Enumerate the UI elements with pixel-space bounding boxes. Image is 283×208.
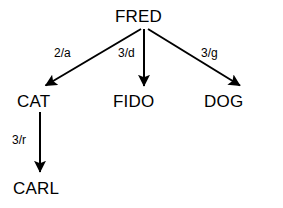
- edge-label-fred-dog: 3/g: [201, 47, 218, 59]
- edge-label-fred-cat: 2/a: [54, 47, 71, 59]
- node-fred: FRED: [115, 8, 162, 25]
- node-cat: CAT: [17, 93, 50, 110]
- edge-label-cat-carl: 3/r: [12, 134, 26, 146]
- edge-fred-dog: [148, 29, 240, 86]
- edge-label-fred-fido: 3/d: [118, 47, 135, 59]
- diagram-canvas: FRED CAT FIDO DOG CARL 2/a 3/d 3/g 3/r: [0, 0, 283, 208]
- node-dog: DOG: [204, 93, 243, 110]
- node-carl: CARL: [13, 180, 59, 197]
- node-fido: FIDO: [113, 93, 154, 110]
